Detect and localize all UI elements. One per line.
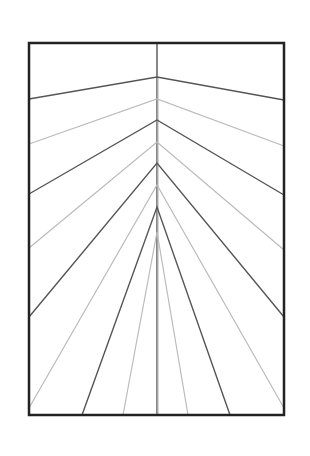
chevron-line-7 [123, 232, 188, 415]
chevron-lines [29, 43, 284, 415]
converging-lines-diagram [0, 0, 310, 456]
